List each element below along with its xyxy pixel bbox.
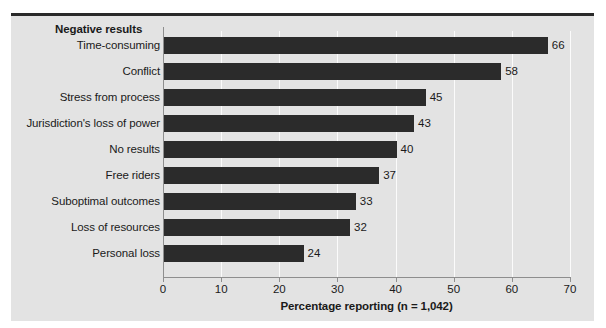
bar <box>164 193 356 210</box>
bar-value-label: 40 <box>397 141 414 158</box>
bar-row: 66 <box>163 33 570 59</box>
bar-value-label: 37 <box>379 167 396 184</box>
bar-value-label: 43 <box>414 115 431 132</box>
x-axis-tick-label: 70 <box>564 283 577 295</box>
gridline <box>570 31 571 277</box>
x-axis-tick <box>570 278 571 282</box>
bar-row: 40 <box>163 137 570 163</box>
category-label: Personal loss <box>92 245 160 262</box>
bar-value-label: 66 <box>548 37 565 54</box>
category-axis-line <box>163 277 571 278</box>
category-label: Stress from process <box>60 89 160 106</box>
bar-row: 43 <box>163 111 570 137</box>
category-label: Loss of resources <box>71 219 160 236</box>
x-axis-tick <box>221 278 222 282</box>
category-label: Suboptimal outcomes <box>51 193 160 210</box>
bar <box>164 167 379 184</box>
bar <box>164 115 414 132</box>
x-axis-tick-label: 20 <box>273 283 286 295</box>
x-axis-title: Percentage reporting (n = 1,042) <box>163 300 570 312</box>
x-axis-tick-label: 60 <box>505 283 518 295</box>
category-axis-labels: Time-consumingConflictStress from proces… <box>11 31 160 277</box>
bar-value-label: 24 <box>304 245 321 262</box>
bar-row: 45 <box>163 85 570 111</box>
top-rule-divider <box>11 13 594 16</box>
bar <box>164 141 397 158</box>
bar-value-label: 33 <box>356 193 373 210</box>
x-axis-tick-label: 0 <box>160 283 166 295</box>
x-axis-tick <box>396 278 397 282</box>
bar <box>164 89 426 106</box>
bar <box>164 63 501 80</box>
category-label: Free riders <box>106 167 161 184</box>
bar <box>164 245 304 262</box>
x-axis-tick <box>163 278 164 282</box>
x-axis-tick <box>512 278 513 282</box>
bar-row: 37 <box>163 163 570 189</box>
category-label: No results <box>109 141 160 158</box>
x-axis-tick <box>279 278 280 282</box>
chart-figure: Negative results Time-consumingConflictS… <box>11 13 594 321</box>
bar-row: 32 <box>163 215 570 241</box>
category-label: Conflict <box>122 63 160 80</box>
plot-area: 010203040506070665845434037333224 <box>163 31 570 277</box>
x-axis-tick <box>454 278 455 282</box>
bar-row: 24 <box>163 241 570 267</box>
x-axis-tick-label: 10 <box>215 283 228 295</box>
category-label: Time-consuming <box>77 37 160 54</box>
bar <box>164 219 350 236</box>
x-axis-tick <box>337 278 338 282</box>
bar-row: 33 <box>163 189 570 215</box>
x-axis-tick-label: 40 <box>389 283 402 295</box>
category-label: Jurisdiction's loss of power <box>26 115 160 132</box>
bar-row: 58 <box>163 59 570 85</box>
x-axis-tick-label: 50 <box>447 283 460 295</box>
bar-value-label: 58 <box>501 63 518 80</box>
x-axis-tick-label: 30 <box>331 283 344 295</box>
bar-value-label: 45 <box>426 89 443 106</box>
bar-value-label: 32 <box>350 219 367 236</box>
bar <box>164 37 548 54</box>
